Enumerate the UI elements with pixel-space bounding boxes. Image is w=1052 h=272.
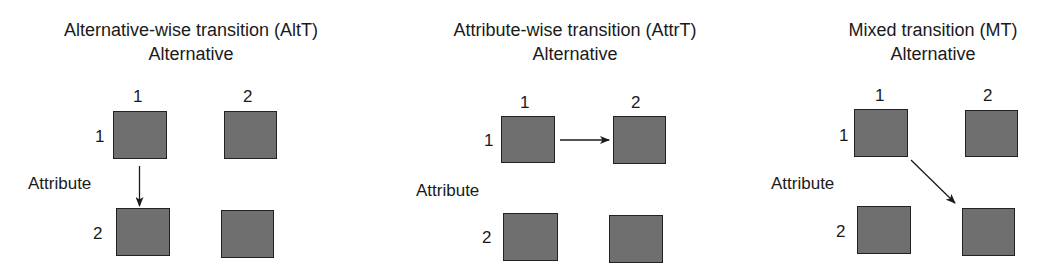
transition-arrows <box>0 0 1052 272</box>
arrow-diagonal-icon <box>911 160 955 203</box>
